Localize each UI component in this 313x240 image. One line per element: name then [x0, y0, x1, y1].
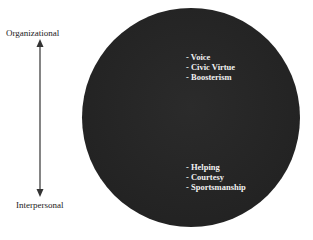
organizational-behaviors-list: - Voice - Civic Virtue - Boosterism	[186, 52, 235, 82]
double-headed-arrow-icon	[33, 39, 47, 197]
list-item: - Helping	[186, 162, 246, 172]
list-item: - Voice	[186, 52, 235, 62]
interpersonal-label: Interpersonal	[16, 200, 63, 210]
behavior-circle	[82, 8, 300, 227]
list-item: - Civic Virtue	[186, 62, 235, 72]
interpersonal-behaviors-list: - Helping - Courtesy - Sportsmanship	[186, 162, 246, 192]
list-item: - Sportsmanship	[186, 182, 246, 192]
organizational-label: Organizational	[6, 28, 59, 38]
list-item: - Boosterism	[186, 72, 235, 82]
list-item: - Courtesy	[186, 172, 246, 182]
